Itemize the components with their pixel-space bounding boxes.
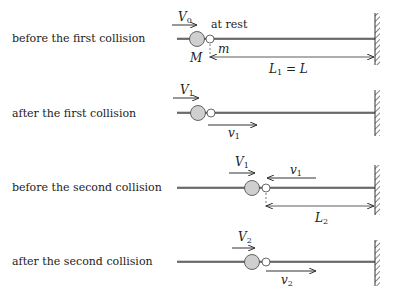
velocity-label-small: v1 — [290, 163, 302, 178]
row-label: after the first collision — [12, 107, 136, 120]
velocity-label-small: v1 — [228, 126, 240, 141]
big-ball-M — [191, 106, 206, 121]
big-ball-M — [190, 32, 205, 47]
wall — [375, 165, 380, 215]
collision-diagram: before the first collision V0 at rest M … — [0, 0, 395, 296]
row-after-first-collision: after the first collision V1 v1 — [12, 83, 380, 141]
row-label: before the first collision — [12, 32, 145, 45]
velocity-label-big: V2 — [238, 230, 252, 245]
velocity-label-big: V1 — [180, 83, 194, 98]
wall — [375, 240, 380, 286]
small-ball-m — [262, 184, 270, 192]
small-ball-m — [207, 109, 215, 117]
mass-label-M: M — [189, 51, 203, 65]
wall — [375, 13, 380, 65]
row-label: before the second collision — [12, 181, 162, 194]
velocity-label-small: v2 — [281, 273, 293, 288]
distance-label: L2 — [314, 211, 328, 226]
small-ball-m — [206, 35, 214, 43]
big-ball-M — [245, 255, 260, 270]
small-ball-m — [262, 258, 270, 266]
row-before-second-collision: before the second collision V1 v1 L2 — [12, 155, 380, 226]
row-label: after the second collision — [12, 255, 153, 268]
velocity-label-big: V0 — [178, 10, 192, 25]
mass-label-m: m — [218, 42, 229, 56]
velocity-label-big: V1 — [235, 155, 249, 170]
wall — [375, 90, 380, 136]
row-after-second-collision: after the second collision V2 v2 — [12, 230, 380, 288]
at-rest-note: at rest — [211, 18, 248, 31]
big-ball-M — [245, 181, 260, 196]
distance-label: L1 = L — [268, 62, 308, 77]
row-before-first-collision: before the first collision V0 at rest M … — [12, 10, 380, 77]
